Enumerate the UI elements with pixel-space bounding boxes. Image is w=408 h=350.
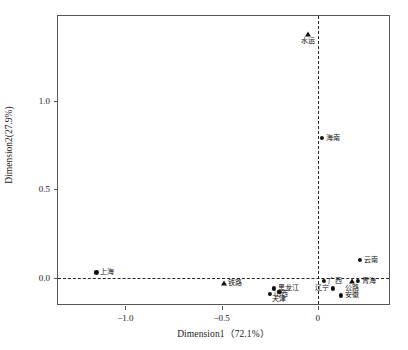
y-axis-title: Dimension2(27.9%) bbox=[2, 0, 16, 290]
x-axis-tick bbox=[222, 306, 223, 310]
data-point-label: 铁路 bbox=[228, 279, 242, 287]
x-axis-tick-label: 0 bbox=[316, 313, 321, 324]
y-axis-tick bbox=[54, 101, 58, 102]
circle-marker-icon bbox=[322, 279, 326, 283]
x-axis-title: Dimension1（72.1%） bbox=[57, 326, 390, 340]
x-axis-tick-label: −0.5 bbox=[213, 313, 229, 324]
y-axis-tick bbox=[54, 189, 58, 190]
triangle-marker-icon bbox=[349, 279, 355, 284]
x-axis-tick bbox=[125, 306, 126, 310]
y-axis-tick-label: 0.5 bbox=[39, 184, 50, 195]
x-axis-tick bbox=[318, 306, 319, 310]
y-axis-tick-label: 0.0 bbox=[39, 272, 50, 283]
data-point-label: 安徽 bbox=[345, 291, 359, 299]
circle-marker-icon bbox=[339, 293, 343, 297]
x-axis-tick-label: −1.0 bbox=[117, 313, 133, 324]
data-point-label: 云南 bbox=[364, 256, 378, 264]
triangle-marker-icon bbox=[221, 281, 227, 286]
circle-marker-icon bbox=[268, 292, 272, 296]
zero-line-vertical bbox=[318, 16, 319, 304]
data-point-label: 辽宁 bbox=[315, 284, 329, 292]
data-point-label: 公路 bbox=[345, 284, 359, 292]
y-axis-tick-label: 1.0 bbox=[39, 95, 50, 106]
circle-marker-icon bbox=[331, 286, 335, 290]
data-point-label: 广西 bbox=[328, 277, 342, 285]
data-point-label: 海南 bbox=[326, 134, 340, 142]
circle-marker-icon bbox=[94, 270, 98, 274]
plot-area: 海南云南上海黑龙江山西天津广西辽宁青海安徽水运铁路公路 −1.0−0.500.0… bbox=[57, 15, 390, 305]
data-point-label: 青海 bbox=[362, 277, 376, 285]
data-point-label: 天津 bbox=[272, 295, 286, 303]
data-point-label: 上海 bbox=[100, 268, 114, 276]
scatter-plot-figure: Dimension2(27.9%) Dimension1（72.1%） 海南云南… bbox=[0, 0, 408, 350]
y-axis-tick bbox=[54, 278, 58, 279]
circle-marker-icon bbox=[320, 136, 324, 140]
data-point-label: 水运 bbox=[301, 37, 315, 45]
y-axis-title-text: Dimension2(27.9%) bbox=[4, 106, 14, 183]
triangle-marker-icon bbox=[305, 31, 311, 36]
circle-marker-icon bbox=[356, 279, 360, 283]
circle-marker-icon bbox=[358, 258, 362, 262]
